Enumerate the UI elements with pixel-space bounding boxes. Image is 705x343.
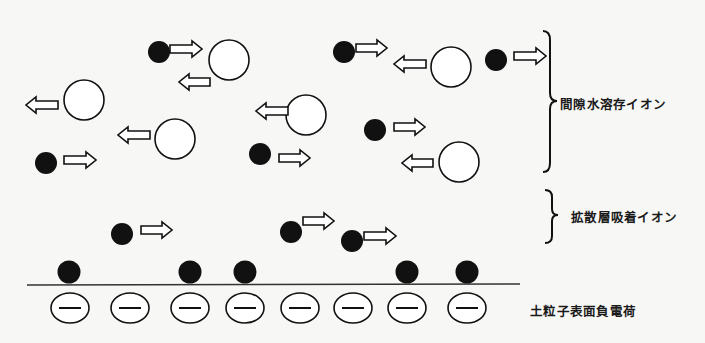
arrow-right-icon bbox=[364, 228, 396, 244]
anion-circle bbox=[286, 95, 326, 135]
arrow-right-icon bbox=[394, 119, 425, 135]
ion-cation bbox=[333, 40, 387, 63]
label-diffuse-layer-ions: 拡散層吸着イオン bbox=[571, 207, 677, 226]
ion-cation bbox=[485, 48, 546, 71]
anion-circle bbox=[209, 40, 249, 80]
arrow-left-icon bbox=[256, 103, 288, 119]
adsorbed-cation-dot bbox=[179, 261, 202, 284]
adsorbed-cation-dot bbox=[58, 261, 81, 284]
ion-anion bbox=[394, 47, 471, 87]
cation-dot bbox=[280, 221, 302, 243]
ion-cation bbox=[364, 119, 425, 141]
cation-dot bbox=[341, 230, 363, 252]
arrow-right-icon bbox=[303, 213, 334, 229]
diagram-canvas bbox=[0, 0, 705, 343]
anion-circle bbox=[155, 119, 195, 159]
arrow-left-icon bbox=[394, 56, 426, 72]
arrow-right-icon bbox=[514, 48, 546, 64]
ion-anion bbox=[402, 142, 479, 182]
arrow-right-icon bbox=[141, 222, 172, 238]
arrow-left-icon bbox=[118, 127, 150, 143]
anion-circle bbox=[431, 47, 471, 87]
arrow-left-icon bbox=[179, 74, 210, 90]
arrow-right-icon bbox=[64, 152, 96, 168]
brace-diffuse-layer bbox=[545, 190, 558, 243]
label-pore-water-ions: 間隙水溶存イオン bbox=[560, 94, 666, 113]
negative-charge bbox=[226, 293, 264, 323]
negative-charge bbox=[334, 293, 372, 323]
cation-dot bbox=[364, 119, 386, 141]
ion-anion bbox=[26, 80, 104, 120]
anion-circle bbox=[64, 80, 104, 120]
arrow-right-icon bbox=[170, 41, 202, 57]
arrow-right-icon bbox=[356, 40, 387, 56]
cation-dot bbox=[333, 41, 355, 63]
brace-pore-water bbox=[543, 31, 557, 172]
ion-cation bbox=[148, 41, 202, 63]
cation-dot bbox=[35, 152, 57, 174]
negative-charge bbox=[448, 293, 486, 323]
ion-cation bbox=[280, 213, 334, 243]
negative-charge bbox=[171, 293, 209, 323]
soil-surface-line bbox=[27, 284, 520, 285]
ion-cation bbox=[249, 143, 310, 166]
adsorbed-cation-dot bbox=[396, 261, 419, 284]
label-surface-charge: 土粒子表面負電荷 bbox=[530, 301, 636, 320]
ions-layer bbox=[26, 40, 546, 252]
ion-cation bbox=[111, 222, 172, 245]
anion-circle bbox=[439, 142, 479, 182]
cation-dot bbox=[111, 223, 133, 245]
adsorbed-cation-dot bbox=[234, 261, 257, 284]
ion-anion bbox=[118, 119, 195, 159]
cation-dot bbox=[148, 41, 170, 63]
arrow-left-icon bbox=[402, 155, 433, 171]
braces-layer bbox=[543, 31, 558, 243]
negative-charge bbox=[388, 293, 426, 323]
ion-anion bbox=[256, 95, 326, 135]
arrow-left-icon bbox=[26, 97, 58, 113]
ion-cation bbox=[35, 152, 96, 174]
negative-charge bbox=[51, 293, 89, 323]
cation-dot bbox=[249, 143, 271, 165]
adsorbed-cation-dot bbox=[456, 261, 479, 284]
soil-particle-surface bbox=[27, 261, 520, 324]
arrow-right-icon bbox=[279, 150, 310, 166]
negative-charge bbox=[281, 293, 319, 323]
cation-dot bbox=[485, 49, 507, 71]
negative-charge bbox=[111, 293, 149, 323]
ion-cation bbox=[341, 228, 396, 252]
